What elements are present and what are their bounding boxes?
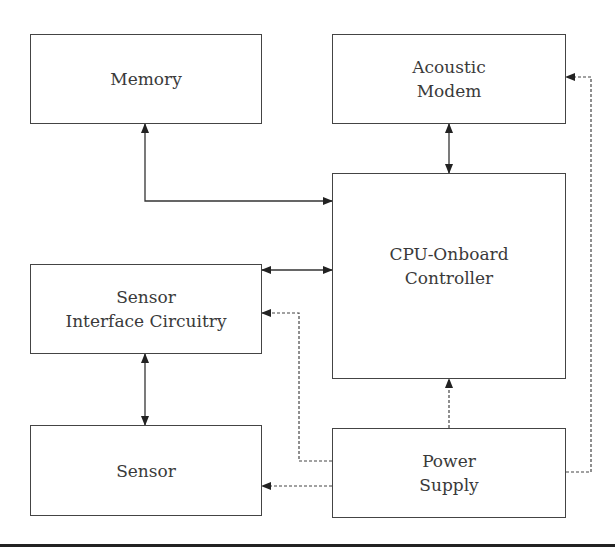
sensor-label: Sensor [116, 459, 176, 483]
bottom-rule [0, 544, 615, 547]
cpu-block: CPU-Onboard Controller [332, 173, 566, 379]
memory-block: Memory [30, 34, 262, 124]
sensor-interface-block: Sensor Interface Circuitry [30, 264, 262, 354]
cpu-label-line1: CPU-Onboard [389, 242, 508, 266]
power-supply-label-line2: Supply [419, 473, 478, 497]
sensor-block: Sensor [30, 425, 262, 516]
sensor-interface-label-line2: Interface Circuitry [65, 309, 226, 333]
sensor-interface-label-line1: Sensor [116, 285, 176, 309]
memory-label: Memory [110, 67, 182, 91]
acoustic-modem-label-line2: Modem [417, 79, 482, 103]
cpu-label-line2: Controller [405, 266, 493, 290]
acoustic-modem-block: Acoustic Modem [332, 34, 566, 124]
power-modem-link [566, 77, 591, 472]
power-interface-link [262, 313, 332, 461]
power-supply-label-line1: Power [422, 449, 476, 473]
power-supply-block: Power Supply [332, 428, 566, 518]
memory-cpu-link [145, 124, 332, 201]
acoustic-modem-label-line1: Acoustic [412, 55, 486, 79]
